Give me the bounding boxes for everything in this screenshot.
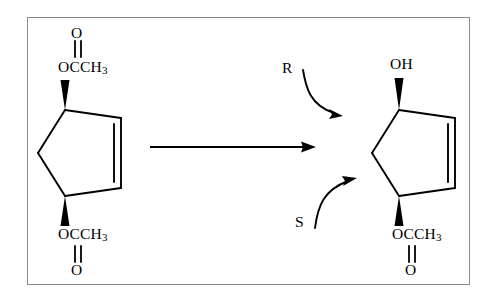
ring-bond-c1-c5 [399,110,455,118]
agent-s-curved-arrow [315,176,357,228]
reactant-top-acetate-subscript: 3 [102,64,108,76]
reactant-top-wedge-bond [61,80,70,110]
reactant-top-carbonyl-double-bond [75,41,81,57]
product-carbonyl-oxygen-label: O [405,262,416,278]
reaction-arrow-head [301,142,316,153]
product-acetate-subscript: 3 [436,231,442,243]
product-acetate-text: OCCH [392,225,436,242]
reactant-top-carbonyl-oxygen-label: O [71,25,82,41]
ring-bond-c1-c5 [65,110,121,118]
ring-bond-c3-c2 [38,153,65,196]
reactant-top-acetate-label: OCCH3 [58,59,107,76]
agent-r-curved-arrow [303,70,343,119]
reactant-bottom-carbonyl-double-bond [75,246,81,262]
ring-bond-c3-c2 [372,153,399,196]
agent-s-arrow-head [342,176,357,186]
ring-bond-c4-c3 [399,188,455,196]
reactant-structure [38,110,121,196]
product-carbonyl-double-bond [409,246,415,262]
agent-r-arrow-head [329,109,343,119]
product-top-wedge-bond [395,78,404,110]
reactant-bottom-acetate-text: OCCH [58,225,102,242]
product-bottom-wedge-bond [395,196,404,226]
ring-bond-c2-c1 [38,110,65,153]
agent-label-r: R [282,60,293,76]
reactant-bottom-acetate-subscript: 3 [102,231,108,243]
reaction-scheme-figure: O OCCH3 OCCH3 O R S OH OCCH3 O [0,0,496,300]
product-structure [372,110,455,196]
product-acetate-label: OCCH3 [392,226,441,243]
ring-bond-c2-c1 [372,110,399,153]
reactant-ring-bonds [38,110,121,196]
reactant-bottom-acetate-label: OCCH3 [58,226,107,243]
chemical-structures-canvas [0,0,496,300]
reactant-bottom-wedge-bond [61,196,70,226]
reaction-arrow [150,142,316,153]
agent-label-s: S [295,214,304,230]
reactant-bottom-carbonyl-oxygen-label: O [71,262,82,278]
product-hydroxyl-label: OH [390,56,413,72]
product-ring-bonds [372,110,455,196]
reactant-top-acetate-text: OCCH [58,58,102,75]
ring-bond-c4-c3 [65,188,121,196]
